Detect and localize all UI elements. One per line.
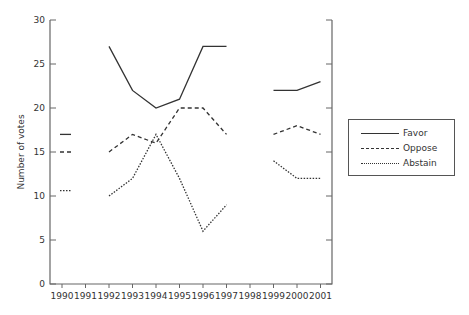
dashed-line-swatch xyxy=(361,148,399,149)
x-tick-label: 2001 xyxy=(309,291,332,301)
series-abstain-line xyxy=(109,134,227,231)
x-tick-label: 1996 xyxy=(192,291,215,301)
series-favor-line xyxy=(109,46,227,108)
series-oppose-line xyxy=(109,108,227,152)
y-tick-label: 20 xyxy=(34,103,46,113)
x-tick-label: 1990 xyxy=(51,291,74,301)
x-tick-label: 2000 xyxy=(286,291,309,301)
series-oppose-line xyxy=(274,126,321,135)
x-tick-label: 1991 xyxy=(74,291,97,301)
x-tick-label: 1992 xyxy=(98,291,121,301)
x-tick-label: 1998 xyxy=(239,291,262,301)
y-tick-label: 5 xyxy=(39,235,45,245)
axes: 0510152025301990199119921993199419951996… xyxy=(34,15,332,301)
legend-item-oppose: Oppose xyxy=(361,141,437,155)
legend-item-abstain: Abstain xyxy=(361,156,437,170)
x-tick-label: 1993 xyxy=(121,291,144,301)
y-tick-label: 15 xyxy=(34,147,45,157)
y-tick-label: 25 xyxy=(34,59,45,69)
legend-label: Favor xyxy=(403,128,427,138)
series-lines xyxy=(60,46,321,231)
y-tick-label: 30 xyxy=(34,15,46,25)
legend-label: Abstain xyxy=(403,158,437,168)
x-tick-label: 1999 xyxy=(262,291,285,301)
x-tick-label: 1994 xyxy=(145,291,168,301)
series-favor-line xyxy=(274,82,321,91)
axis-frame xyxy=(50,20,332,284)
x-tick-label: 1995 xyxy=(168,291,191,301)
legend-item-favor: Favor xyxy=(361,126,427,140)
y-tick-label: 0 xyxy=(39,279,45,289)
dotted-line-swatch xyxy=(361,163,399,164)
legend: Favor Oppose Abstain xyxy=(348,119,455,176)
legend-label: Oppose xyxy=(403,143,437,153)
series-abstain-line xyxy=(274,161,321,179)
y-axis-title: Number of votes xyxy=(16,114,26,189)
y-tick-label: 10 xyxy=(34,191,46,201)
x-tick-label: 1997 xyxy=(215,291,238,301)
solid-line-swatch xyxy=(361,133,399,134)
